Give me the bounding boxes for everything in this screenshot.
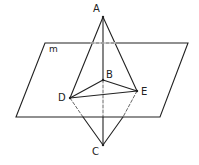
plane-label: m [49, 45, 58, 54]
segment-DC-visible [83, 117, 103, 145]
geometry-diagram: m A B C D E [0, 0, 199, 165]
segment-AD [70, 17, 103, 98]
point-label-E: E [141, 87, 147, 97]
point-label-D: D [58, 93, 66, 103]
segment-DC-hidden [70, 98, 83, 117]
point-label-B: B [106, 70, 113, 80]
segment-BE [103, 80, 137, 91]
point-label-A: A [93, 4, 100, 14]
segment-EC-hidden [123, 91, 137, 117]
point-label-C: C [92, 147, 99, 157]
diagram-canvas [0, 0, 199, 165]
segment-EC-visible [103, 117, 123, 145]
